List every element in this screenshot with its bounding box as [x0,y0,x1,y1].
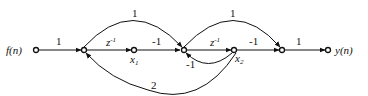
label-x2: x2 [234,52,244,66]
gain-feedback: 2 [151,79,157,91]
gain-arc-top1: 1 [132,7,138,19]
node-n3 [280,48,285,53]
node-n2 [182,48,187,53]
gain-x2-n2: -1 [186,58,195,70]
gain-x2-n3: -1 [249,35,258,47]
edge-n2-n3-arc [184,21,280,48]
gain-z2: z-1 [209,36,220,48]
gain-z1: z-1 [105,36,116,48]
edge-x2-n1-feedback [86,53,236,94]
node-x1 [132,48,137,53]
node-output [326,48,331,53]
label-x1: x1 [129,53,138,67]
gain-out: 1 [296,35,302,47]
node-input [34,48,39,53]
output-label: y(n) [334,44,353,57]
edge-n1-n2-arc [84,21,182,48]
gain-in: 1 [56,35,62,47]
gain-x1-n2: -1 [152,35,161,47]
node-n1 [82,48,87,53]
input-label: f(n) [6,44,22,57]
gain-arc-top2: 1 [230,7,236,19]
signal-flow-graph: f(n) y(n) 1 z-1 x1 -1 1 z-1 x2 -1 -1 1 1… [0,0,368,96]
